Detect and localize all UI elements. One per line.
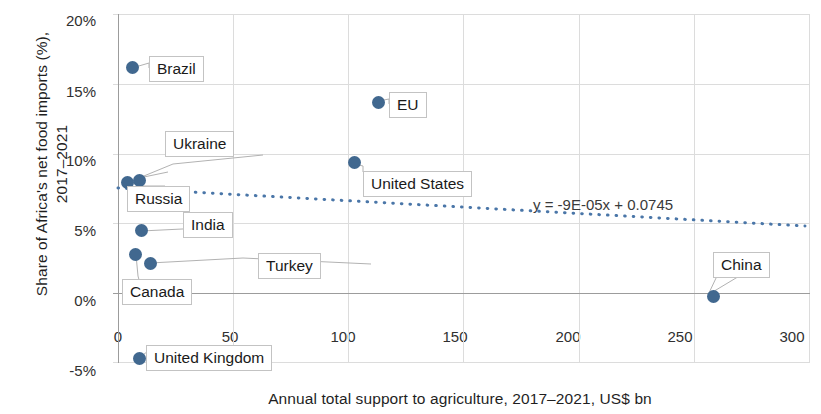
point-label-united-states: United States bbox=[363, 171, 472, 197]
data-point-brazil[interactable] bbox=[126, 61, 139, 74]
y-tick-20: 20% bbox=[40, 12, 96, 29]
gridline-horizontal-15 bbox=[113, 84, 810, 85]
x-axis-title: Annual total support to agriculture, 201… bbox=[110, 390, 810, 408]
point-label-united-kingdom: United Kingdom bbox=[146, 345, 272, 371]
point-label-russia: Russia bbox=[127, 186, 190, 212]
point-label-turkey: Turkey bbox=[258, 253, 321, 279]
gridline-vertical-250 bbox=[694, 14, 695, 363]
y-tick-15: 15% bbox=[40, 83, 96, 100]
y-tick-10: 10% bbox=[40, 152, 96, 169]
point-label-china: China bbox=[713, 252, 770, 278]
gridline-vertical-100 bbox=[348, 14, 349, 363]
y-tick-0: 0% bbox=[40, 292, 96, 309]
point-label-canada: Canada bbox=[122, 279, 192, 305]
data-point-turkey[interactable] bbox=[144, 257, 157, 270]
point-label-ukraine: Ukraine bbox=[165, 131, 234, 157]
gridline-vertical-50 bbox=[233, 14, 234, 363]
data-point-ukraine[interactable] bbox=[133, 174, 146, 187]
data-point-eu[interactable] bbox=[372, 96, 385, 109]
gridline-horizontal-20 bbox=[113, 14, 810, 15]
chart-canvas: Share of Africa's net food imports (%), … bbox=[0, 0, 821, 414]
y-tick-neg5: -5% bbox=[40, 362, 96, 379]
point-label-eu: EU bbox=[389, 92, 427, 118]
y-axis-line bbox=[118, 14, 119, 363]
y-tick-5: 5% bbox=[40, 222, 96, 239]
data-point-canada[interactable] bbox=[129, 248, 142, 261]
gridline-vertical-300 bbox=[809, 14, 810, 363]
data-point-united-states[interactable] bbox=[348, 156, 361, 169]
data-point-india[interactable] bbox=[135, 224, 148, 237]
trendline-equation: y = -9E-05x + 0.0745 bbox=[533, 196, 673, 213]
point-label-brazil: Brazil bbox=[149, 56, 204, 82]
point-label-india: India bbox=[183, 212, 233, 238]
plot-area: Brazil EU United States Ukraine Russia I… bbox=[113, 14, 810, 363]
data-point-china[interactable] bbox=[707, 290, 720, 303]
gridline-vertical-200 bbox=[579, 14, 580, 363]
data-point-united-kingdom[interactable] bbox=[133, 352, 146, 365]
x-axis-line bbox=[113, 293, 810, 294]
